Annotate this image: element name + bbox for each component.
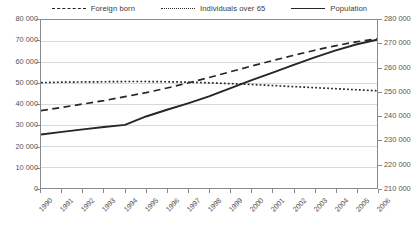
right-axis-tick-label: 250 000 <box>384 88 411 96</box>
plot-svg <box>41 20 377 188</box>
left-axis-tick-label: 60 000 <box>15 58 38 66</box>
left-axis-tick-mark <box>36 147 40 148</box>
left-axis-tick-mark <box>36 62 40 63</box>
left-axis-tick-mark <box>36 83 40 84</box>
x-axis-tick-mark <box>40 189 41 193</box>
right-axis-tick-label: 240 000 <box>384 112 411 120</box>
legend-item-individuals-over-65: Individuals over 65 <box>161 4 265 13</box>
right-axis-tick-label: 270 000 <box>384 39 411 47</box>
right-axis-tick-mark <box>378 116 382 117</box>
right-axis-tick-mark <box>378 68 382 69</box>
x-axis-tick-mark <box>230 189 231 193</box>
x-axis-tick-mark <box>82 189 83 193</box>
legend-label-foreign-born: Foreign born <box>91 4 135 13</box>
x-axis-tick-mark <box>125 189 126 193</box>
right-axis-tick-label: 230 000 <box>384 136 411 144</box>
legend-item-population: Population <box>291 4 367 13</box>
left-axis-tick-label: 20 000 <box>15 143 38 151</box>
right-axis-tick-mark <box>378 140 382 141</box>
right-axis-tick-mark <box>378 19 382 20</box>
legend-label-population: Population <box>330 4 367 13</box>
left-axis-tick-label: 30 000 <box>15 121 38 129</box>
left-axis-tick-label: 50 000 <box>15 79 38 87</box>
series-line-population <box>41 40 377 135</box>
x-axis-tick-mark <box>251 189 252 193</box>
left-axis-tick-label: 70 000 <box>15 36 38 44</box>
x-axis-tick-mark <box>188 189 189 193</box>
right-axis-tick-label: 210 000 <box>384 185 411 193</box>
right-axis-tick-label: 220 000 <box>384 161 411 169</box>
left-axis-tick-label: 10 000 <box>15 164 38 172</box>
x-axis-tick-mark <box>209 189 210 193</box>
x-axis-tick-mark <box>61 189 62 193</box>
series-line-foreign-born <box>41 39 377 111</box>
right-axis-tick-mark <box>378 43 382 44</box>
chart-legend: Foreign born Individuals over 65 Populat… <box>0 0 419 17</box>
left-axis-tick-label: 40 000 <box>15 100 38 108</box>
x-axis-tick-mark <box>294 189 295 193</box>
x-axis-tick-mark <box>357 189 358 193</box>
right-axis-tick-label: 280 000 <box>384 15 411 23</box>
legend-label-individuals-over-65: Individuals over 65 <box>200 4 265 13</box>
right-axis-tick-mark <box>378 92 382 93</box>
legend-swatch-dashed-icon <box>52 5 86 12</box>
line-chart: Foreign born Individuals over 65 Populat… <box>0 0 419 231</box>
legend-swatch-dotted-icon <box>161 5 195 12</box>
legend-swatch-solid-icon <box>291 5 325 12</box>
left-axis-tick-mark <box>36 104 40 105</box>
right-axis-tick-mark <box>378 165 382 166</box>
left-axis-tick-label: 80 000 <box>15 15 38 23</box>
x-axis-tick-mark <box>146 189 147 193</box>
legend-item-foreign-born: Foreign born <box>52 4 135 13</box>
x-axis-tick-mark <box>336 189 337 193</box>
right-axis-tick-label: 260 000 <box>384 64 411 72</box>
x-axis-tick-mark <box>315 189 316 193</box>
plot-area <box>40 19 378 189</box>
x-axis-tick-mark <box>378 189 379 193</box>
x-axis-tick-mark <box>167 189 168 193</box>
left-axis-tick-mark <box>36 168 40 169</box>
x-axis-tick-mark <box>103 189 104 193</box>
left-axis-tick-mark <box>36 125 40 126</box>
x-axis-tick-mark <box>272 189 273 193</box>
left-axis-tick-mark <box>36 19 40 20</box>
left-axis-tick-mark <box>36 40 40 41</box>
